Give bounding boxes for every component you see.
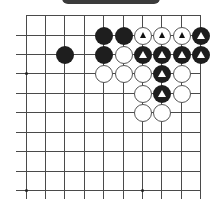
white-stone[interactable]	[153, 104, 171, 122]
star-point	[141, 189, 144, 192]
triangle-icon	[178, 51, 186, 58]
black-stone[interactable]	[115, 27, 133, 45]
black-stone[interactable]	[134, 46, 152, 64]
grid-line-vertical	[64, 15, 65, 199]
black-stone[interactable]	[192, 46, 210, 64]
grid-line-horizontal	[16, 151, 201, 152]
grid-line-horizontal	[16, 190, 201, 191]
triangle-icon	[158, 51, 166, 58]
triangle-icon	[139, 51, 147, 58]
grid-line-horizontal	[16, 112, 201, 113]
white-stone[interactable]	[95, 65, 113, 83]
triangle-icon	[197, 32, 205, 39]
grid-line-horizontal	[16, 171, 201, 172]
white-stone[interactable]	[115, 46, 133, 64]
black-stone[interactable]	[153, 65, 171, 83]
triangle-icon	[159, 32, 165, 38]
white-stone[interactable]	[173, 27, 191, 45]
go-board[interactable]	[0, 0, 217, 208]
white-stone[interactable]	[134, 85, 152, 103]
triangle-icon	[158, 70, 166, 77]
star-point	[25, 189, 28, 192]
white-stone[interactable]	[134, 27, 152, 45]
black-stone[interactable]	[192, 27, 210, 45]
white-stone[interactable]	[134, 65, 152, 83]
grid-line-vertical	[84, 15, 85, 199]
black-stone[interactable]	[173, 46, 191, 64]
triangle-icon	[179, 32, 185, 38]
white-stone[interactable]	[173, 85, 191, 103]
white-stone[interactable]	[153, 27, 171, 45]
white-stone[interactable]	[115, 65, 133, 83]
white-stone[interactable]	[134, 104, 152, 122]
black-stone[interactable]	[95, 27, 113, 45]
grid-line-vertical	[26, 15, 27, 199]
grid-line-horizontal	[26, 15, 201, 16]
triangle-icon	[158, 90, 166, 97]
grid-line-vertical	[45, 15, 46, 199]
black-stone[interactable]	[153, 46, 171, 64]
black-stone[interactable]	[95, 46, 113, 64]
triangle-icon	[140, 32, 146, 38]
black-stone[interactable]	[56, 46, 74, 64]
triangle-icon	[197, 51, 205, 58]
star-point	[25, 72, 28, 75]
black-stone[interactable]	[153, 85, 171, 103]
grid-line-horizontal	[16, 132, 201, 133]
white-stone[interactable]	[173, 65, 191, 83]
